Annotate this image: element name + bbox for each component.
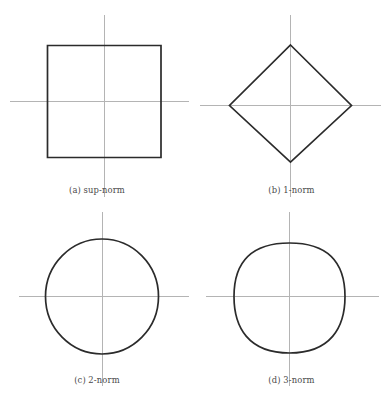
caption-text-a: sup-norm xyxy=(84,185,125,195)
panel-2-norm: (c)2-norm xyxy=(0,207,194,414)
caption-index-d: (d) xyxy=(268,375,280,385)
caption-text-b: 1-norm xyxy=(283,185,314,195)
square-shape-icon xyxy=(0,0,194,207)
caption-2-norm: (c)2-norm xyxy=(0,375,194,385)
panel-grid: (a)sup-norm (b)1-norm (c)2-norm xyxy=(0,0,389,414)
caption-index-a: (a) xyxy=(69,185,81,195)
caption-sup-norm: (a)sup-norm xyxy=(0,185,194,195)
diamond-shape-icon xyxy=(194,0,389,207)
caption-index-c: (c) xyxy=(74,375,86,385)
caption-index-b: (b) xyxy=(268,185,280,195)
panel-sup-norm: (a)sup-norm xyxy=(0,0,194,207)
caption-text-c: 2-norm xyxy=(88,375,119,385)
caption-text-d: 3-norm xyxy=(283,375,314,385)
figure-unit-balls: (a)sup-norm (b)1-norm (c)2-norm xyxy=(0,0,389,414)
panel-3-norm: (d)3-norm xyxy=(194,207,389,414)
panel-1-norm: (b)1-norm xyxy=(194,0,389,207)
caption-3-norm: (d)3-norm xyxy=(194,375,389,385)
caption-1-norm: (b)1-norm xyxy=(194,185,389,195)
